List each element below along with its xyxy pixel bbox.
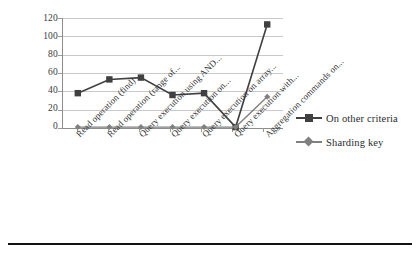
data-point-square: [75, 90, 81, 96]
legend-item-on-other-criteria: On other criteria: [296, 108, 418, 128]
data-point-square: [106, 76, 112, 82]
legend-label: Sharding key: [326, 137, 384, 148]
legend-item-sharding-key: Sharding key: [296, 132, 418, 152]
y-tick-label: 120: [28, 14, 58, 24]
y-tick-label: 60: [28, 68, 58, 78]
y-tick-label: 0: [28, 122, 58, 132]
y-axis-tick-labels: 120 100 80 60 40 20 0: [26, 0, 58, 130]
chart-legend: On other criteria Sharding key: [296, 108, 418, 156]
data-point-square: [264, 21, 270, 27]
y-tick-label: 20: [28, 104, 58, 114]
legend-label: On other criteria: [326, 113, 398, 124]
y-tick-label: 40: [28, 86, 58, 96]
y-tick-label: 80: [28, 50, 58, 60]
legend-square-marker-icon: [296, 112, 322, 124]
bottom-divider-rule: [8, 243, 412, 245]
plot-area: 120 100 80 60 40 20 0: [0, 0, 300, 150]
legend-diamond-marker-icon: [296, 136, 322, 148]
x-axis-category-labels: Read operation (find)Read operation (ran…: [62, 128, 292, 243]
data-point-square: [138, 74, 144, 80]
y-tick-label: 100: [28, 32, 58, 42]
chart-figure: 120 100 80 60 40 20 0: [0, 0, 419, 256]
